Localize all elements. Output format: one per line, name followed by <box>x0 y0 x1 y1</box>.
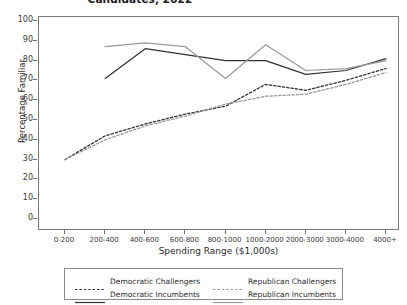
y-tick-label: 80 <box>3 56 33 64</box>
legend-label: Republican Challengers <box>248 277 336 286</box>
y-tick-mark <box>33 20 37 21</box>
y-tick-mark <box>33 40 37 41</box>
x-tick-mark <box>305 230 306 234</box>
y-tick-mark <box>33 159 37 160</box>
y-tick-label: 70 <box>3 75 33 83</box>
y-tick-mark <box>33 198 37 199</box>
x-tick-mark <box>225 230 226 234</box>
y-tick-label: 90 <box>3 36 33 44</box>
series-line-1 <box>65 72 386 159</box>
chart-title: Candidates, 2022 <box>40 0 240 5</box>
plot-lines <box>39 17 400 231</box>
y-tick-mark <box>33 79 37 80</box>
y-tick-mark <box>33 178 37 179</box>
legend-swatch-icon <box>75 278 105 285</box>
legend-item-1[interactable]: Republican Challengers <box>213 275 336 287</box>
legend-swatch-icon <box>213 291 243 298</box>
y-tick-label: 30 <box>3 155 33 163</box>
y-tick-label: 40 <box>3 135 33 143</box>
legend-label: Democratic Challengers <box>110 277 200 286</box>
legend-item-2[interactable]: Democratic Incumbents <box>75 288 200 300</box>
plot-area <box>38 16 399 230</box>
y-tick-label: 0 <box>3 214 33 222</box>
y-tick-mark <box>33 139 37 140</box>
y-axis-ticks: 1009080706050403020100 <box>0 0 33 305</box>
x-tick-mark <box>385 230 386 234</box>
x-tick-mark <box>184 230 185 234</box>
y-tick-mark <box>33 99 37 100</box>
y-tick-mark <box>33 60 37 61</box>
legend-label: Republican Incumbents <box>248 290 336 299</box>
x-tick-label: 4000+ <box>355 236 407 244</box>
y-tick-mark <box>33 119 37 120</box>
x-tick-mark <box>104 230 105 234</box>
legend-item-3[interactable]: Republican Incumbents <box>213 288 336 300</box>
y-tick-label: 60 <box>3 95 33 103</box>
x-tick-mark <box>265 230 266 234</box>
x-tick-mark <box>345 230 346 234</box>
legend-swatch-icon <box>75 291 105 298</box>
x-tick-mark <box>144 230 145 234</box>
y-tick-label: 20 <box>3 174 33 182</box>
series-line-2 <box>105 49 386 79</box>
chart-legend: Democratic ChallengersRepublican Challen… <box>64 268 343 300</box>
legend-item-0[interactable]: Democratic Challengers <box>75 275 200 287</box>
y-tick-label: 10 <box>3 194 33 202</box>
legend-label: Democratic Incumbents <box>110 290 200 299</box>
series-line-0 <box>65 69 386 160</box>
x-tick-mark <box>64 230 65 234</box>
y-tick-label: 50 <box>3 115 33 123</box>
x-axis-label: Spending Range ($1,000s) <box>38 246 399 256</box>
y-tick-mark <box>33 218 37 219</box>
y-tick-label: 100 <box>3 16 33 24</box>
legend-swatch-icon <box>213 278 243 285</box>
chart-figure: Candidates, 2022 Percentage Familiar 100… <box>0 0 407 305</box>
